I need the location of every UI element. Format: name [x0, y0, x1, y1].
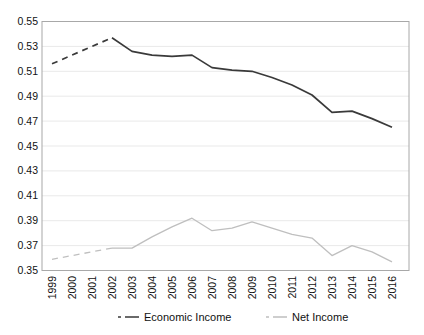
x-axis-tick-label: 2013: [326, 276, 338, 300]
y-axis-tick-label: 0.35: [18, 264, 39, 276]
x-axis-tick-label: 2003: [126, 276, 138, 300]
gridlines-layer: [42, 46, 409, 245]
y-axis-tick-label: 0.39: [18, 214, 39, 226]
line-chart-figure: 0.550.530.510.490.470.450.430.410.390.37…: [0, 0, 424, 335]
y-axis-tick-label: 0.49: [18, 90, 39, 102]
x-axis-tick-label: 1999: [46, 276, 58, 300]
legend-item-net-income: Net Income: [266, 311, 348, 323]
series-line-net-income: [112, 218, 392, 262]
y-axis-tick-label: 0.53: [18, 40, 39, 52]
y-axis-tick-label: 0.37: [18, 239, 39, 251]
y-axis-tick-label: 0.47: [18, 115, 39, 127]
x-axis-tick-label: 2001: [86, 276, 98, 300]
y-axis-tick-label: 0.51: [18, 65, 39, 77]
y-axis-tick-label: 0.45: [18, 140, 39, 152]
legend: Economic IncomeNet Income: [118, 311, 348, 323]
x-axis-labels: 1999200020012002200320042005200620072008…: [46, 276, 398, 300]
x-axis-tick-label: 2004: [146, 276, 158, 300]
legend-item-economic-income: Economic Income: [118, 311, 231, 323]
y-axis-labels: 0.550.530.510.490.470.450.430.410.390.37…: [18, 15, 39, 276]
series-line-dashed-net-income: [52, 248, 112, 259]
series-line-economic-income: [112, 38, 392, 128]
x-axis-tick-label: 2016: [386, 276, 398, 300]
x-axis-tick-label: 2002: [106, 276, 118, 300]
x-axis-tick-label: 2000: [66, 276, 78, 300]
legend-label: Net Income: [292, 311, 348, 323]
x-axis-tick-label: 2014: [346, 276, 358, 300]
x-axis-tick-label: 2012: [306, 276, 318, 300]
y-axis-tick-label: 0.55: [18, 15, 39, 27]
x-axis-tick-label: 2015: [366, 276, 378, 300]
x-axis-tick-label: 2011: [286, 276, 298, 299]
x-axis-tick-label: 2005: [166, 276, 178, 300]
legend-label: Economic Income: [144, 311, 231, 323]
chart-canvas: 0.550.530.510.490.470.450.430.410.390.37…: [0, 0, 424, 335]
y-axis-tick-label: 0.41: [18, 189, 39, 201]
x-axis-tick-label: 2006: [186, 276, 198, 300]
series-line-dashed-economic-income: [52, 38, 112, 64]
x-axis-tick-label: 2009: [246, 276, 258, 300]
x-axis-tick-label: 2008: [226, 276, 238, 300]
y-axis-tick-label: 0.43: [18, 164, 39, 176]
x-axis-tick-label: 2010: [266, 276, 278, 300]
x-axis-tick-label: 2007: [206, 276, 218, 300]
